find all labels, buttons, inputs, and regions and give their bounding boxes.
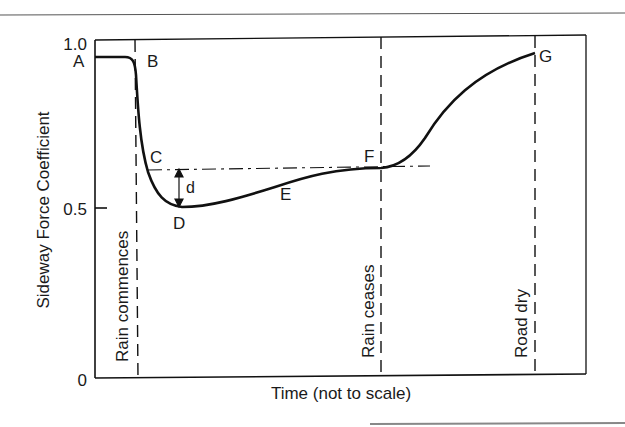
point-label-d: D [173,214,185,233]
point-label-e: E [280,185,291,204]
y-tick-label-0: 0 [78,371,87,390]
bottom-rule [370,423,625,424]
label-rain-ceases: Rain ceases [359,264,378,358]
point-label-c: C [150,148,162,167]
y-axis-label: Sideway Force Coefficient [34,111,53,308]
top-rule [0,13,625,15]
sfc-curve [95,53,535,207]
point-label-b: B [147,52,158,71]
point-label-g: G [539,47,552,66]
point-labels: A B C D E F G [73,47,552,233]
label-road-dry: Road dry [512,289,531,358]
chart-figure: 1.0 0.5 0 Sideway Force Coefficient Time… [0,0,625,427]
point-label-f: F [364,147,374,166]
point-label-a: A [73,52,85,71]
label-rain-commences: Rain commences [113,231,132,362]
x-axis-label: Time (not to scale) [271,384,411,403]
y-tick-label-0.5: 0.5 [63,200,87,219]
d-arrow [175,169,183,207]
label-d: d [186,179,195,196]
y-ticks: 1.0 0.5 0 [63,35,107,390]
